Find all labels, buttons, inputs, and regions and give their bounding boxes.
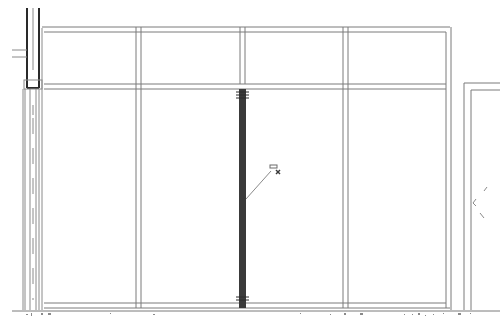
cad-drawing-canvas[interactable] <box>0 0 500 324</box>
